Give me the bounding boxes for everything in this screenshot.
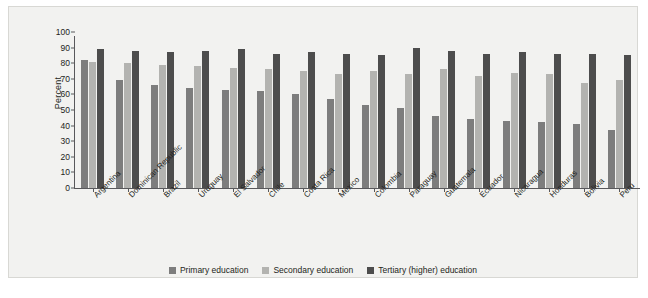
x-label-cell: Uruguay (180, 193, 215, 253)
legend-label: Secondary education (273, 265, 353, 275)
x-label-cell: Paraguay (391, 193, 426, 253)
bar-group (216, 32, 251, 188)
chart-page: Percent 0102030405060708090100 Argentina… (0, 0, 648, 298)
bar-primary (362, 105, 369, 188)
bar-secondary (370, 71, 377, 188)
bar-tertiary (238, 49, 245, 188)
bar-tertiary (554, 54, 561, 188)
bar-tertiary (483, 54, 490, 188)
chart-legend: Primary educationSecondary educationTert… (9, 265, 637, 275)
bar-group (356, 32, 391, 188)
legend-label: Tertiary (higher) education (378, 265, 477, 275)
bar-secondary (546, 74, 553, 188)
bar-secondary (616, 80, 623, 188)
chart-figure: Percent 0102030405060708090100 Argentina… (8, 6, 638, 278)
bar-group (497, 32, 532, 188)
bar-tertiary (308, 52, 315, 188)
bar-secondary (194, 66, 201, 188)
bar-secondary (124, 63, 131, 188)
bar-tertiary (97, 49, 104, 188)
x-label-cell: Nicaragua (497, 193, 532, 253)
bar-group (321, 32, 356, 188)
legend-item: Secondary education (262, 265, 353, 275)
bar-tertiary (624, 55, 631, 188)
bar-tertiary (273, 54, 280, 188)
bar-primary (222, 90, 229, 188)
x-label-cell: Ecuador (461, 193, 496, 253)
x-label-cell: Argentina (75, 193, 110, 253)
bar-group (426, 32, 461, 188)
legend-item: Primary education (169, 265, 249, 275)
bar-primary (292, 94, 299, 188)
bar-tertiary (448, 51, 455, 188)
bar-group (461, 32, 496, 188)
x-label-cell: Chile (251, 193, 286, 253)
bar-group (180, 32, 215, 188)
x-label-cell: Costa Rica (286, 193, 321, 253)
bar-tertiary (589, 54, 596, 188)
x-label-cell: Colombia (356, 193, 391, 253)
x-label-cell: Guatemala (426, 193, 461, 253)
bar-secondary (300, 71, 307, 188)
bar-tertiary (132, 51, 139, 188)
bar-group (75, 32, 110, 188)
bar-group (251, 32, 286, 188)
bar-secondary (581, 83, 588, 188)
bar-tertiary (413, 48, 420, 188)
x-label-cell: Peru (602, 193, 637, 253)
legend-label: Primary education (180, 265, 249, 275)
bar-secondary (405, 74, 412, 188)
bar-tertiary (202, 51, 209, 188)
bar-group (110, 32, 145, 188)
bar-primary (81, 60, 88, 188)
bar-tertiary (378, 55, 385, 188)
bar-secondary (511, 73, 518, 188)
bar-tertiary (167, 52, 174, 188)
x-label-cell: Mexico (321, 193, 356, 253)
x-axis-labels: ArgentinaDominican RepublicBrazilUruguay… (75, 193, 637, 253)
legend-item: Tertiary (higher) education (367, 265, 477, 275)
legend-swatch-tertiary (367, 267, 374, 274)
legend-swatch-primary (169, 267, 176, 274)
bar-tertiary (343, 54, 350, 188)
bar-secondary (230, 68, 237, 188)
legend-swatch-secondary (262, 267, 269, 274)
x-label-cell: Bolivia (567, 193, 602, 253)
bar-group (532, 32, 567, 188)
bar-secondary (89, 62, 96, 188)
x-label-cell: Honduras (532, 193, 567, 253)
bar-primary (186, 88, 193, 188)
bar-group (567, 32, 602, 188)
x-label-cell: Dominican Republic (110, 193, 145, 253)
x-label-cell: El Salvador (216, 193, 251, 253)
bar-secondary (440, 69, 447, 188)
bar-group (391, 32, 426, 188)
bar-primary (608, 130, 615, 188)
x-label-cell: Brazil (145, 193, 180, 253)
bar-tertiary (519, 52, 526, 188)
bar-group (602, 32, 637, 188)
bar-group (286, 32, 321, 188)
